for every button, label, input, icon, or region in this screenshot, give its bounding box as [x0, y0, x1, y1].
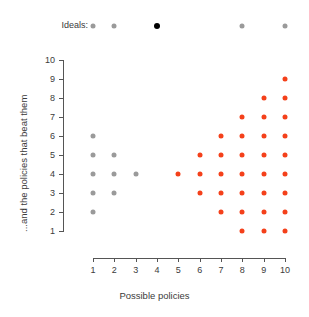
scatter-point: [240, 229, 245, 234]
scatter-point: [283, 153, 288, 158]
scatter-point: [261, 96, 266, 101]
x-tick-label: 7: [218, 265, 223, 275]
ideals-label: Ideals:: [40, 20, 88, 30]
x-tick: [264, 258, 265, 262]
x-tick: [93, 258, 94, 262]
y-tick: [59, 212, 63, 213]
scatter-point: [112, 153, 117, 158]
x-tick: [157, 258, 158, 262]
x-tick: [178, 258, 179, 262]
scatter-point: [240, 134, 245, 139]
scatter-point: [261, 115, 266, 120]
scatter-point: [283, 96, 288, 101]
scatter-point: [219, 210, 224, 215]
scatter-point: [261, 172, 266, 177]
scatter-point: [283, 134, 288, 139]
scatter-point: [240, 115, 245, 120]
scatter-point: [197, 172, 202, 177]
x-tick: [221, 258, 222, 262]
y-axis-title: ...and the policies that beat them: [18, 95, 29, 232]
scatter-point: [112, 191, 117, 196]
y-tick: [59, 79, 63, 80]
chart-root: Ideals: 12345678910 12345678910 Possible…: [0, 0, 309, 317]
y-tick-label: 8: [36, 93, 55, 103]
y-tick-label: 4: [36, 169, 55, 179]
scatter-point: [197, 153, 202, 158]
y-tick: [59, 174, 63, 175]
scatter-point: [240, 153, 245, 158]
y-tick-label: 5: [36, 150, 55, 160]
ideals-point: [112, 24, 117, 29]
scatter-point: [112, 172, 117, 177]
scatter-point: [240, 172, 245, 177]
scatter-point: [283, 77, 288, 82]
scatter-point: [176, 172, 181, 177]
scatter-point: [261, 229, 266, 234]
scatter-point: [133, 172, 138, 177]
y-tick: [59, 193, 63, 194]
scatter-point: [283, 229, 288, 234]
x-tick-label: 9: [261, 265, 266, 275]
y-tick-label: 1: [36, 226, 55, 236]
y-tick: [59, 117, 63, 118]
scatter-point: [219, 153, 224, 158]
y-tick-label: 9: [36, 74, 55, 84]
y-tick: [59, 136, 63, 137]
scatter-point: [240, 210, 245, 215]
x-tick-label: 10: [280, 265, 290, 275]
x-tick-label: 2: [112, 265, 117, 275]
scatter-point: [219, 191, 224, 196]
scatter-point: [283, 210, 288, 215]
scatter-point: [283, 172, 288, 177]
ideals-point: [283, 24, 288, 29]
y-tick: [59, 98, 63, 99]
ideals-point: [154, 23, 160, 29]
x-axis-line: [93, 258, 285, 259]
scatter-point: [261, 210, 266, 215]
scatter-point: [91, 191, 96, 196]
y-tick-label: 6: [36, 131, 55, 141]
x-axis-title: Possible policies: [0, 290, 309, 301]
y-tick-label: 10: [36, 55, 55, 65]
x-tick: [242, 258, 243, 262]
y-tick-label: 3: [36, 188, 55, 198]
scatter-point: [219, 134, 224, 139]
scatter-point: [283, 115, 288, 120]
scatter-point: [261, 191, 266, 196]
scatter-point: [283, 191, 288, 196]
ideals-point: [91, 24, 96, 29]
x-tick-label: 8: [240, 265, 245, 275]
x-tick: [114, 258, 115, 262]
scatter-point: [261, 153, 266, 158]
ideals-point: [240, 24, 245, 29]
scatter-point: [91, 172, 96, 177]
y-axis-line: [63, 60, 64, 232]
y-tick: [59, 231, 63, 232]
scatter-point: [197, 191, 202, 196]
x-tick-label: 5: [176, 265, 181, 275]
scatter-point: [261, 134, 266, 139]
y-tick-label: 7: [36, 112, 55, 122]
x-tick-label: 1: [90, 265, 95, 275]
x-tick: [200, 258, 201, 262]
y-tick: [59, 155, 63, 156]
x-tick-label: 6: [197, 265, 202, 275]
y-tick: [59, 60, 63, 61]
x-tick-label: 3: [133, 265, 138, 275]
y-tick-label: 2: [36, 207, 55, 217]
scatter-point: [91, 210, 96, 215]
scatter-point: [91, 134, 96, 139]
scatter-point: [240, 191, 245, 196]
x-tick: [285, 258, 286, 262]
x-tick-label: 4: [154, 265, 159, 275]
x-tick: [136, 258, 137, 262]
scatter-point: [219, 172, 224, 177]
scatter-point: [91, 153, 96, 158]
